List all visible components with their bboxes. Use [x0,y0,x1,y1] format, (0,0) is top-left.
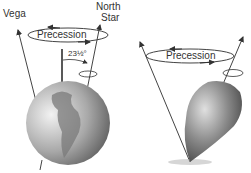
north-star-label-line1: North [96,1,120,12]
top-spin-ellipse-icon [223,70,243,77]
precession-label: Precession [37,29,86,40]
south-axis-line [40,160,42,170]
top-precession-arrow-bottom-icon [200,62,214,63]
tilt-angle-label: 23½° [68,49,87,58]
north-star-label-line2: Star [101,12,120,23]
earth-panel: Vega North Star Precession 23½° [3,1,120,170]
precession-arrow-top-icon [48,27,60,28]
top-precession-label: Precession [166,50,215,61]
tilt-arc-icon [63,59,87,63]
precession-diagram: Vega North Star Precession 23½° Precessi… [0,0,251,173]
spinning-top [185,81,242,162]
spin-ellipse-icon [79,71,97,77]
top-panel: Precession [140,37,243,165]
vega-label: Vega [3,8,26,19]
